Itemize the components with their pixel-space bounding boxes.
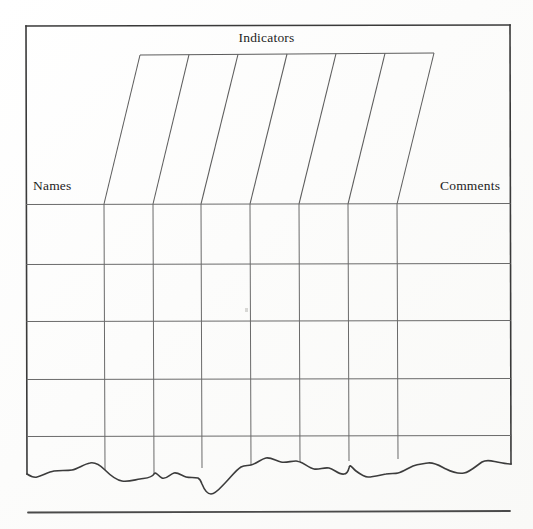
column-rule-1	[104, 204, 105, 470]
row-rule-2	[27, 321, 511, 322]
row-rule-0	[26, 204, 511, 205]
slant-line-1	[104, 55, 140, 204]
row-rule-4	[27, 436, 511, 437]
slant-line-5	[299, 54, 336, 204]
footer-rule	[28, 511, 510, 513]
row-rule-1	[26, 264, 510, 265]
column-rule-4	[250, 204, 251, 465]
frame-right-edge	[510, 25, 511, 464]
row-rules	[26, 204, 511, 437]
form-table-graphic	[0, 0, 533, 529]
slant-line-4	[250, 54, 287, 204]
column-rule-5	[299, 204, 300, 462]
ink-speck	[245, 308, 248, 312]
column-rule-2	[153, 204, 154, 474]
column-rules	[104, 204, 398, 474]
frame-left-edge	[26, 26, 27, 474]
column-header-names: Names	[33, 178, 72, 194]
frame-top-edge	[26, 25, 510, 26]
slant-line-7	[397, 53, 434, 204]
row-rule-3	[27, 379, 511, 380]
slant-line-3	[201, 54, 238, 204]
column-rule-6	[348, 204, 349, 461]
document-page: Indicators Names Comments	[0, 0, 533, 529]
header-title-indicators: Indicators	[0, 30, 533, 46]
column-rule-3	[201, 204, 202, 468]
slanted-header-group	[104, 53, 434, 204]
column-header-comments: Comments	[440, 178, 500, 194]
table-frame	[26, 25, 511, 474]
slant-line-2	[153, 55, 189, 204]
torn-paper-edge	[27, 458, 511, 494]
slant-line-6	[348, 53, 385, 204]
column-rule-7	[397, 204, 398, 459]
